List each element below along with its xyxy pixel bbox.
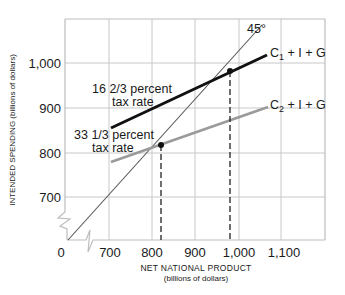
y-tick-labels: 1,000 900 800 700 (28, 56, 61, 205)
svg-text:800: 800 (141, 245, 163, 260)
svg-text:700: 700 (39, 190, 61, 205)
svg-text:700: 700 (99, 245, 121, 260)
svg-text:1,100: 1,100 (268, 245, 301, 260)
c1-annotation-line2: tax rate (112, 95, 154, 109)
x-tick-labels: 0 700 800 900 1,000 1,100 (57, 245, 300, 260)
svg-text:800: 800 (39, 146, 61, 161)
y-axis-title: INTENDED SPENDING (billions of dollars) (8, 54, 17, 206)
svg-text:900: 900 (184, 245, 206, 260)
equilibrium-point-c1 (227, 68, 233, 74)
spending-chart: 45° C1 + I + G C2 + I + G 16 2/3 percent… (0, 0, 345, 295)
c2-label: C2 + I + G (270, 98, 326, 114)
svg-text:1,000: 1,000 (223, 245, 256, 260)
c1-label: C1 + I + G (270, 46, 326, 62)
y-axis-break (58, 19, 70, 240)
svg-text:1,000: 1,000 (28, 56, 61, 71)
svg-text:900: 900 (39, 101, 61, 116)
equilibrium-point-c2 (158, 142, 164, 148)
x-axis-subtitle: (billions of dollars) (164, 274, 229, 283)
45-degree-label: 45° (247, 22, 266, 36)
svg-text:0: 0 (57, 245, 64, 260)
x-axis-title: NET NATIONAL PRODUCT (140, 263, 251, 273)
c1-annotation-line1: 16 2/3 percent (92, 82, 172, 96)
c2-annotation-line2: tax rate (92, 141, 134, 155)
c2-annotation-line1: 33 1/3 percent (74, 128, 154, 142)
